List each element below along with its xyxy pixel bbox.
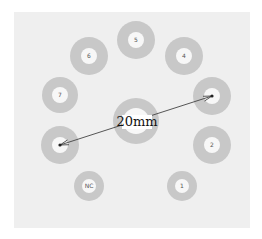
pin-label: NC <box>85 182 94 189</box>
pin-2: 2 <box>193 126 231 164</box>
pin-label: 7 <box>58 91 62 98</box>
dimension-endpoint-end <box>210 94 213 97</box>
pin-layout-diagram: 56472NC1 20mm <box>0 0 262 239</box>
pin-5: 5 <box>117 21 155 59</box>
dimension-endpoint-start <box>58 143 61 146</box>
pin-4: 4 <box>165 37 203 75</box>
pin-label: 6 <box>87 52 91 59</box>
pin-1: 1 <box>167 171 197 201</box>
pin-label: 5 <box>134 36 138 43</box>
pin-NC: NC <box>74 171 104 201</box>
dimension-label: 20mm <box>116 114 157 129</box>
pin-label: 1 <box>180 182 184 189</box>
pin-label: 4 <box>182 52 186 59</box>
pin-6: 6 <box>70 37 108 75</box>
pin-7: 7 <box>42 77 78 113</box>
pin-label: 2 <box>210 141 214 148</box>
